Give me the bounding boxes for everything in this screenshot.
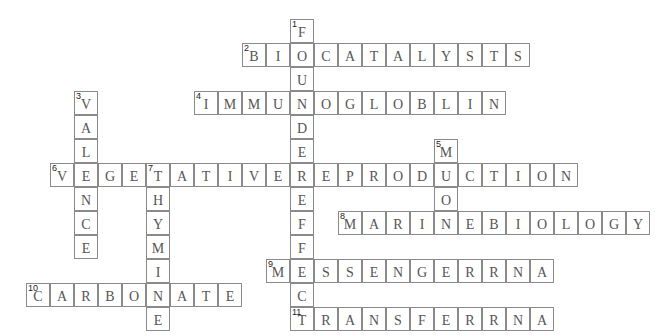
- crossword-cell[interactable]: U: [434, 163, 458, 187]
- crossword-cell[interactable]: N: [74, 187, 98, 211]
- crossword-cell[interactable]: E: [266, 163, 290, 187]
- crossword-cell[interactable]: E: [434, 259, 458, 283]
- crossword-cell[interactable]: O: [530, 211, 554, 235]
- crossword-cell[interactable]: E: [290, 259, 314, 283]
- crossword-cell[interactable]: A: [338, 43, 362, 67]
- crossword-cell[interactable]: F: [290, 235, 314, 259]
- crossword-cell[interactable]: O: [434, 187, 458, 211]
- crossword-cell[interactable]: E: [314, 163, 338, 187]
- crossword-cell[interactable]: N: [482, 91, 506, 115]
- crossword-cell[interactable]: S: [338, 259, 362, 283]
- crossword-cell[interactable]: P: [338, 163, 362, 187]
- crossword-cell[interactable]: B: [482, 211, 506, 235]
- crossword-cell[interactable]: D: [290, 115, 314, 139]
- crossword-cell[interactable]: I: [266, 43, 290, 67]
- crossword-cell[interactable]: I: [506, 211, 530, 235]
- crossword-cell[interactable]: R: [458, 259, 482, 283]
- crossword-cell[interactable]: V3: [74, 91, 98, 115]
- crossword-cell[interactable]: O: [290, 43, 314, 67]
- crossword-cell[interactable]: I4: [194, 91, 218, 115]
- crossword-cell[interactable]: M8: [338, 211, 362, 235]
- crossword-cell[interactable]: R: [362, 163, 386, 187]
- crossword-cell[interactable]: R: [482, 307, 506, 331]
- crossword-cell[interactable]: A: [170, 283, 194, 307]
- crossword-cell[interactable]: M: [242, 91, 266, 115]
- crossword-cell[interactable]: V: [242, 163, 266, 187]
- crossword-cell[interactable]: L: [410, 43, 434, 67]
- crossword-cell[interactable]: E: [74, 235, 98, 259]
- crossword-cell[interactable]: T: [362, 43, 386, 67]
- crossword-cell[interactable]: B2: [242, 43, 266, 67]
- crossword-cell[interactable]: I: [458, 91, 482, 115]
- crossword-cell[interactable]: C10: [26, 283, 50, 307]
- crossword-cell[interactable]: A: [338, 307, 362, 331]
- crossword-cell[interactable]: E: [122, 163, 146, 187]
- crossword-cell[interactable]: M: [146, 235, 170, 259]
- crossword-cell[interactable]: S: [386, 307, 410, 331]
- crossword-cell[interactable]: F: [410, 307, 434, 331]
- crossword-cell[interactable]: M: [218, 91, 242, 115]
- crossword-cell[interactable]: E: [434, 307, 458, 331]
- crossword-cell[interactable]: O: [578, 211, 602, 235]
- crossword-cell[interactable]: R: [74, 283, 98, 307]
- crossword-cell[interactable]: T: [194, 163, 218, 187]
- crossword-cell[interactable]: E: [74, 163, 98, 187]
- crossword-cell[interactable]: R: [482, 259, 506, 283]
- crossword-cell[interactable]: L: [362, 91, 386, 115]
- crossword-cell[interactable]: N: [506, 259, 530, 283]
- crossword-cell[interactable]: I: [410, 211, 434, 235]
- crossword-cell[interactable]: E: [290, 139, 314, 163]
- crossword-cell[interactable]: O: [314, 91, 338, 115]
- crossword-cell[interactable]: T7: [146, 163, 170, 187]
- crossword-cell[interactable]: R: [458, 307, 482, 331]
- crossword-cell[interactable]: E: [458, 211, 482, 235]
- crossword-cell[interactable]: N: [146, 283, 170, 307]
- crossword-cell[interactable]: T11: [290, 307, 314, 331]
- crossword-cell[interactable]: U: [290, 67, 314, 91]
- crossword-cell[interactable]: Y: [434, 43, 458, 67]
- crossword-cell[interactable]: I: [506, 163, 530, 187]
- crossword-cell[interactable]: T: [482, 163, 506, 187]
- crossword-cell[interactable]: B: [410, 91, 434, 115]
- crossword-cell[interactable]: G: [338, 91, 362, 115]
- crossword-cell[interactable]: Y: [626, 211, 650, 235]
- crossword-cell[interactable]: N: [290, 91, 314, 115]
- crossword-cell[interactable]: G: [98, 163, 122, 187]
- crossword-cell[interactable]: M9: [266, 259, 290, 283]
- crossword-cell[interactable]: B: [98, 283, 122, 307]
- crossword-cell[interactable]: N: [506, 307, 530, 331]
- crossword-cell[interactable]: F: [290, 211, 314, 235]
- crossword-cell[interactable]: A: [386, 43, 410, 67]
- crossword-cell[interactable]: O: [122, 283, 146, 307]
- crossword-cell[interactable]: A: [530, 307, 554, 331]
- crossword-cell[interactable]: N: [434, 211, 458, 235]
- crossword-cell[interactable]: A: [530, 259, 554, 283]
- crossword-cell[interactable]: O: [386, 163, 410, 187]
- crossword-cell[interactable]: S: [458, 43, 482, 67]
- crossword-cell[interactable]: L: [434, 91, 458, 115]
- crossword-cell[interactable]: N: [362, 307, 386, 331]
- crossword-cell[interactable]: S: [314, 259, 338, 283]
- crossword-cell[interactable]: R: [314, 307, 338, 331]
- crossword-cell[interactable]: D: [410, 163, 434, 187]
- crossword-cell[interactable]: C: [314, 43, 338, 67]
- crossword-cell[interactable]: E: [218, 283, 242, 307]
- crossword-cell[interactable]: E: [290, 187, 314, 211]
- crossword-cell[interactable]: M5: [434, 139, 458, 163]
- crossword-cell[interactable]: A: [362, 211, 386, 235]
- crossword-cell[interactable]: F1: [290, 19, 314, 43]
- crossword-cell[interactable]: S: [506, 43, 530, 67]
- crossword-cell[interactable]: L: [74, 139, 98, 163]
- crossword-cell[interactable]: H: [146, 187, 170, 211]
- crossword-cell[interactable]: I: [218, 163, 242, 187]
- crossword-cell[interactable]: T: [194, 283, 218, 307]
- crossword-cell[interactable]: V6: [50, 163, 74, 187]
- crossword-cell[interactable]: E: [362, 259, 386, 283]
- crossword-cell[interactable]: A: [50, 283, 74, 307]
- crossword-cell[interactable]: L: [554, 211, 578, 235]
- crossword-cell[interactable]: E: [146, 307, 170, 331]
- crossword-cell[interactable]: T: [482, 43, 506, 67]
- crossword-cell[interactable]: C: [458, 163, 482, 187]
- crossword-cell[interactable]: Y: [146, 211, 170, 235]
- crossword-cell[interactable]: N: [386, 259, 410, 283]
